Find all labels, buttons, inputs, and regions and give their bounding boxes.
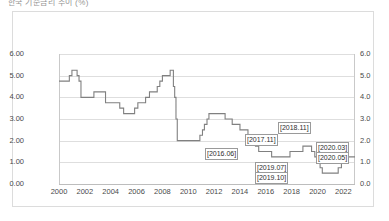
x-axis-tick-2002: 2002 bbox=[77, 188, 94, 196]
y-axis-left-tick-0: 0.00 bbox=[9, 180, 24, 188]
annotation-201811: [2018.11] bbox=[278, 122, 311, 134]
chart-screenshot: 한국 기준금리 추이 (%) 0.001.002.003.004.005.006… bbox=[0, 0, 389, 221]
annotation-201606: [2016.06] bbox=[205, 148, 238, 160]
x-axis-tick-2014: 2014 bbox=[232, 188, 249, 196]
x-axis-tick-2000: 2000 bbox=[51, 188, 68, 196]
y-axis-left-tick-5: 5.00 bbox=[9, 72, 24, 80]
y-axis-right-tick-5: 5.0 bbox=[360, 72, 370, 80]
x-axis-tick-2010: 2010 bbox=[180, 188, 197, 196]
page-title: 한국 기준금리 추이 (%) bbox=[8, 0, 89, 7]
y-axis-right-tick-4: 4.0 bbox=[360, 93, 370, 101]
gridline-y-0 bbox=[59, 184, 355, 185]
x-axis: 2000200220042006200820102012201420162018… bbox=[59, 188, 355, 200]
x-axis-tick-2006: 2006 bbox=[128, 188, 145, 196]
chart-card: 0.001.002.003.004.005.006.00 0.01.02.03.… bbox=[12, 11, 374, 207]
y-axis-right-tick-2: 2.0 bbox=[360, 137, 370, 145]
x-axis-tick-2004: 2004 bbox=[102, 188, 119, 196]
x-axis-tick-2008: 2008 bbox=[154, 188, 171, 196]
y-axis-left-tick-6: 6.00 bbox=[9, 50, 24, 58]
x-axis-tick-2012: 2012 bbox=[206, 188, 223, 196]
x-axis-tick-2020: 2020 bbox=[309, 188, 326, 196]
y-axis-left-tick-2: 2.00 bbox=[9, 137, 24, 145]
plot-area bbox=[59, 54, 355, 184]
annotation-201711: [2017.11] bbox=[245, 134, 278, 146]
y-axis-right-tick-0: 0.0 bbox=[360, 180, 370, 188]
y-axis-right-tick-3: 3.0 bbox=[360, 115, 370, 123]
y-axis-right-tick-6: 6.0 bbox=[360, 50, 370, 58]
y-axis-right-tick-1: 1.0 bbox=[360, 158, 370, 166]
annotation-202005: [2020.05] bbox=[316, 152, 349, 164]
y-axis-left-tick-4: 4.00 bbox=[9, 93, 24, 101]
annotation-201910: [2019.10] bbox=[255, 172, 288, 184]
x-axis-tick-2018: 2018 bbox=[283, 188, 300, 196]
x-axis-tick-2016: 2016 bbox=[257, 188, 274, 196]
y-axis-left-tick-1: 1.00 bbox=[9, 158, 24, 166]
series-line-chart bbox=[59, 54, 355, 184]
x-axis-tick-2022: 2022 bbox=[335, 188, 352, 196]
y-axis-left-tick-3: 3.00 bbox=[9, 115, 24, 123]
